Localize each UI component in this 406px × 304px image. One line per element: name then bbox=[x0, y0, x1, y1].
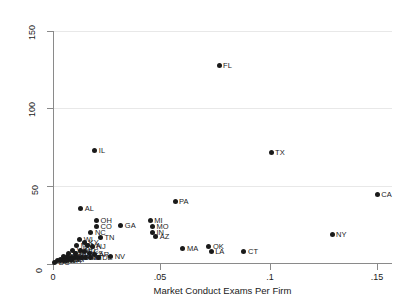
x-axis-title: Market Conduct Exams Per Firm bbox=[53, 285, 392, 296]
data-point-label: LA bbox=[215, 248, 224, 256]
data-point bbox=[173, 199, 178, 204]
x-tick-15 bbox=[377, 264, 378, 270]
scatter-chart: 150 100 50 0 0 .05 .1 .15 Market Conduct… bbox=[0, 0, 406, 304]
y-tick-50 bbox=[47, 186, 53, 187]
data-point bbox=[330, 232, 335, 237]
data-point bbox=[375, 192, 380, 197]
data-point-label: NH bbox=[71, 257, 82, 265]
x-tick-05 bbox=[160, 264, 161, 270]
data-point bbox=[78, 206, 83, 211]
y-tick-100 bbox=[47, 108, 53, 109]
data-point bbox=[153, 234, 158, 239]
x-axis-label-0: 0 bbox=[38, 272, 68, 282]
data-point bbox=[96, 255, 101, 260]
data-point-label: TN bbox=[104, 234, 114, 242]
y-axis-label-150: 150 bbox=[21, 24, 43, 38]
data-point bbox=[217, 63, 222, 68]
data-point-label: CA bbox=[381, 191, 391, 199]
data-point-label: DE bbox=[102, 254, 112, 262]
data-point bbox=[209, 249, 214, 254]
data-point bbox=[269, 150, 274, 155]
x-axis-label-15: .15 bbox=[362, 272, 392, 282]
data-point-label: PA bbox=[179, 198, 188, 206]
data-point-label: FL bbox=[223, 62, 232, 70]
y-axis-label-0: 0 bbox=[28, 257, 50, 271]
data-point-label: GA bbox=[125, 222, 136, 230]
y-axis-label-50: 50 bbox=[24, 179, 46, 193]
y-tick-150 bbox=[47, 31, 53, 32]
data-point bbox=[52, 260, 57, 265]
data-point-label: MA bbox=[187, 245, 198, 253]
x-tick-1 bbox=[270, 264, 271, 270]
data-point-label: AL bbox=[85, 205, 94, 213]
data-point-label: NY bbox=[336, 231, 346, 239]
data-point-label: DC bbox=[59, 259, 70, 267]
x-axis-label-1: .1 bbox=[255, 272, 285, 282]
data-point-label: TX bbox=[275, 149, 285, 157]
data-point-label: AZ bbox=[160, 233, 170, 241]
data-point bbox=[148, 218, 153, 223]
data-point-label: CT bbox=[248, 248, 258, 256]
data-point bbox=[98, 235, 103, 240]
x-axis-label-05: .05 bbox=[145, 272, 175, 282]
data-point-label: NV bbox=[115, 253, 125, 261]
data-point-label: IL bbox=[99, 147, 105, 155]
data-point bbox=[118, 223, 123, 228]
y-axis-label-100: 100 bbox=[21, 101, 43, 115]
